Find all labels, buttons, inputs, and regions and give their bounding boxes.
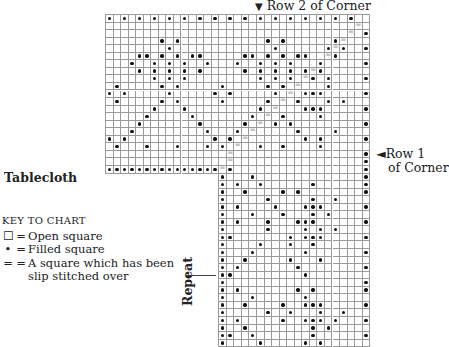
filled-square bbox=[174, 83, 182, 91]
open-square bbox=[272, 189, 280, 197]
filled-square bbox=[159, 38, 167, 46]
row1-text-line2: of Corner bbox=[376, 161, 449, 175]
open-square bbox=[106, 60, 114, 68]
open-square bbox=[121, 60, 129, 68]
open-square bbox=[234, 68, 242, 76]
open-square bbox=[348, 174, 356, 182]
open-square bbox=[121, 143, 129, 151]
open-square bbox=[242, 91, 250, 99]
filled-square bbox=[204, 128, 212, 136]
open-square bbox=[302, 211, 310, 219]
open-square bbox=[257, 287, 265, 295]
filled-square bbox=[272, 15, 280, 23]
filled-square bbox=[219, 98, 227, 106]
open-square bbox=[136, 23, 144, 31]
filled-square bbox=[363, 189, 371, 197]
open-square bbox=[340, 113, 348, 121]
slip-stitch-square bbox=[325, 53, 333, 61]
open-square bbox=[257, 136, 265, 144]
open-square bbox=[302, 196, 310, 204]
open-square bbox=[287, 249, 295, 257]
filled-square bbox=[363, 75, 371, 83]
filled-square bbox=[280, 38, 288, 46]
open-square bbox=[272, 30, 280, 38]
filled-square bbox=[317, 68, 325, 76]
open-square bbox=[265, 60, 273, 68]
open-square bbox=[121, 68, 129, 76]
filled-square bbox=[333, 196, 341, 204]
open-square bbox=[265, 332, 273, 340]
open-square bbox=[340, 181, 348, 189]
filled-square bbox=[219, 234, 227, 242]
open-square bbox=[242, 60, 250, 68]
open-square bbox=[129, 113, 137, 121]
open-square bbox=[257, 53, 265, 61]
open-square bbox=[212, 53, 220, 61]
slip-stitch-square bbox=[355, 23, 363, 31]
filled-square bbox=[310, 234, 318, 242]
open-square bbox=[272, 113, 280, 121]
open-square bbox=[348, 136, 356, 144]
open-square bbox=[227, 106, 235, 114]
open-square bbox=[182, 121, 190, 129]
filled-square bbox=[242, 53, 250, 61]
filled-square bbox=[136, 15, 144, 23]
open-square bbox=[249, 317, 257, 325]
open-square bbox=[317, 279, 325, 287]
open-square bbox=[340, 143, 348, 151]
open-square bbox=[234, 309, 242, 317]
filled-square bbox=[219, 204, 227, 212]
open-square bbox=[234, 257, 242, 265]
filled-square bbox=[257, 340, 265, 347]
open-square bbox=[144, 83, 152, 91]
filled-square bbox=[121, 166, 129, 174]
open-square bbox=[234, 113, 242, 121]
open-square bbox=[325, 113, 333, 121]
open-square bbox=[355, 204, 363, 212]
filled-square bbox=[197, 68, 205, 76]
filled-square bbox=[249, 211, 257, 219]
open-square bbox=[333, 75, 341, 83]
open-square bbox=[249, 98, 257, 106]
open-square bbox=[302, 181, 310, 189]
open-square bbox=[242, 113, 250, 121]
open-square bbox=[144, 106, 152, 114]
open-square bbox=[265, 75, 273, 83]
filled-square bbox=[219, 272, 227, 280]
open-square bbox=[272, 143, 280, 151]
open-square bbox=[182, 158, 190, 166]
filled-square bbox=[219, 241, 227, 249]
slip-stitch-icon: = bbox=[2, 257, 14, 271]
open-square bbox=[249, 226, 257, 234]
filled-square bbox=[295, 264, 303, 272]
open-square bbox=[136, 106, 144, 114]
filled-square bbox=[151, 166, 159, 174]
open-square bbox=[114, 23, 122, 31]
open-square bbox=[333, 325, 341, 333]
filled-square bbox=[287, 234, 295, 242]
filled-square bbox=[234, 60, 242, 68]
open-square bbox=[144, 68, 152, 76]
open-square bbox=[348, 249, 356, 257]
open-square bbox=[189, 151, 197, 159]
filled-square bbox=[257, 143, 265, 151]
open-square bbox=[272, 83, 280, 91]
open-square bbox=[182, 98, 190, 106]
open-square bbox=[129, 68, 137, 76]
open-square bbox=[287, 226, 295, 234]
open-square bbox=[114, 30, 122, 38]
open-square bbox=[234, 302, 242, 310]
open-square bbox=[159, 30, 167, 38]
open-square bbox=[340, 264, 348, 272]
open-square bbox=[234, 15, 242, 23]
open-square bbox=[136, 143, 144, 151]
open-square bbox=[106, 151, 114, 159]
open-square bbox=[234, 234, 242, 242]
open-square bbox=[114, 158, 122, 166]
open-square bbox=[204, 106, 212, 114]
open-square bbox=[219, 121, 227, 129]
open-square bbox=[287, 189, 295, 197]
open-square bbox=[257, 196, 265, 204]
open-square bbox=[265, 287, 273, 295]
open-square bbox=[317, 45, 325, 53]
